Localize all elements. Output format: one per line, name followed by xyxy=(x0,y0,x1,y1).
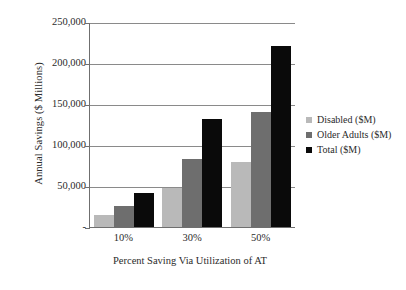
y-axis-tick-label: - xyxy=(8,222,86,232)
x-axis-line xyxy=(90,227,295,228)
x-axis-tick-label: 50% xyxy=(226,232,295,243)
y-axis-tick-label: 100,000 xyxy=(8,140,86,150)
legend-swatch-icon xyxy=(306,132,312,138)
bar[interactable] xyxy=(114,206,134,228)
y-axis-tick-mark xyxy=(85,228,90,229)
y-axis-tick-mark xyxy=(85,187,90,188)
bar[interactable] xyxy=(251,112,271,228)
bar[interactable] xyxy=(162,188,182,228)
bar[interactable] xyxy=(182,159,202,228)
y-axis-tick-mark xyxy=(85,146,90,147)
bar-chart-figure: Annual Savings ($ Millions) 250,000200,0… xyxy=(0,0,406,290)
legend-item[interactable]: Older Adults ($M) xyxy=(306,127,391,142)
legend-item-label: Older Adults ($M) xyxy=(317,129,391,140)
x-axis-title: Percent Saving Via Utilization of AT xyxy=(40,255,340,266)
legend-item[interactable]: Total ($M) xyxy=(306,142,391,157)
bar[interactable] xyxy=(202,119,222,228)
y-axis-tick-label: 200,000 xyxy=(8,58,86,68)
chart-legend: Disabled ($M)Older Adults ($M)Total ($M) xyxy=(306,112,391,157)
legend-item[interactable]: Disabled ($M) xyxy=(306,112,391,127)
x-axis-tick-label: 30% xyxy=(158,232,227,243)
legend-item-label: Total ($M) xyxy=(317,144,360,155)
y-axis-tick-mark xyxy=(85,64,90,65)
bar-group xyxy=(90,23,158,228)
y-axis-tick-mark xyxy=(85,23,90,24)
legend-swatch-icon xyxy=(306,147,312,153)
bar-group xyxy=(227,23,295,228)
y-axis-title: Annual Savings ($ Millions) xyxy=(33,24,44,224)
x-axis-tick-labels: 10%30%50% xyxy=(89,232,295,243)
bar[interactable] xyxy=(271,46,291,228)
bar[interactable] xyxy=(134,193,154,228)
bar-group xyxy=(158,23,226,228)
legend-swatch-icon xyxy=(306,117,312,123)
y-axis-tick-label: 250,000 xyxy=(8,17,86,27)
plot-area xyxy=(89,23,295,228)
y-axis-tick-label: 50,000 xyxy=(8,181,86,191)
y-axis-tick-label: 150,000 xyxy=(8,99,86,109)
y-axis-tick-mark xyxy=(85,105,90,106)
bar[interactable] xyxy=(231,162,251,228)
x-axis-tick-label: 10% xyxy=(89,232,158,243)
bars-layer xyxy=(90,23,295,228)
legend-item-label: Disabled ($M) xyxy=(317,114,376,125)
